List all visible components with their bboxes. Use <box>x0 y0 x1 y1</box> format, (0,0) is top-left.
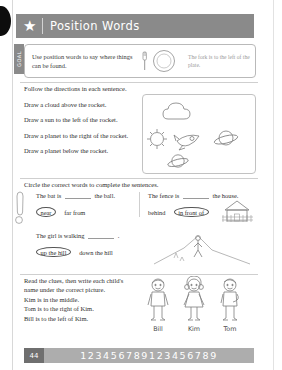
section2-columns: The bat is the ball. near far from The f… <box>24 192 254 217</box>
sentence-after: the ball. <box>94 192 115 199</box>
section1-drawing-area[interactable] <box>142 94 256 174</box>
sentence-before: The bat is <box>36 192 61 199</box>
sentence-after: . <box>118 232 120 239</box>
section1-instruction-list: Draw a cloud above the rocket. Draw a su… <box>24 100 136 155</box>
section-circle-words: Circle the correct words to complete the… <box>24 180 254 272</box>
clue-item: Tom is to the right of Kim. <box>24 304 136 313</box>
child-name-label: Kim <box>178 325 210 333</box>
footer-digit-strip: 123456789123456789 <box>44 350 254 361</box>
planet-right-drawing <box>213 131 238 146</box>
section2-prompt: Circle the correct words to complete the… <box>24 180 254 190</box>
children-figures: Bill <box>142 276 254 333</box>
sentence-before: The fence is <box>148 192 179 199</box>
section-divider-2 <box>20 178 258 179</box>
goal-text: Use position words to say where things c… <box>25 52 136 71</box>
sentence-line: The bat is the ball. <box>36 192 139 199</box>
star-icon: ★ <box>16 19 42 34</box>
choice-plain[interactable]: down the hill <box>79 249 113 256</box>
section-divider-3 <box>20 274 258 275</box>
fork-and-plate-icon <box>136 46 188 76</box>
page-header: ★ Position Words <box>16 14 254 38</box>
list-item: Draw a planet below the rocket. <box>24 146 136 155</box>
section1-prompt: Follow the directions in each sentence. <box>24 84 254 94</box>
answer-blank[interactable] <box>88 232 114 239</box>
page-number-badge: 44 <box>24 348 44 363</box>
bat-and-ball-icon <box>14 190 30 228</box>
section-name-the-children: Read the clues, then write each child's … <box>24 276 254 342</box>
cloud-drawing <box>163 103 190 119</box>
child-name-label: Tom <box>214 325 246 333</box>
answer-blank[interactable] <box>183 192 209 199</box>
rocket-drawing <box>174 135 199 150</box>
section-follow-directions: Follow the directions in each sentence. … <box>24 84 254 176</box>
choice-circled[interactable]: in front of <box>174 207 209 217</box>
goal-example-text: The fork is to the left of the plate. <box>188 53 254 69</box>
sentence-before: The girl is walking <box>36 232 84 239</box>
girl-walking-up-hill-icon <box>154 228 250 268</box>
section-divider-1 <box>20 82 258 83</box>
binding-blob-icon <box>0 6 11 36</box>
choice-row: near far from <box>36 207 139 217</box>
question-fence-house: The fence is the house. behind in front … <box>139 192 254 217</box>
list-item: Draw a sun to the left of the rocket. <box>24 115 136 124</box>
goal-box: Use position words to say where things c… <box>24 44 256 78</box>
planet-below-drawing <box>167 155 189 168</box>
choice-plain[interactable]: behind <box>148 209 165 216</box>
child-figure-2: Kim <box>178 276 210 333</box>
house-with-fence-icon <box>220 198 256 224</box>
section3-prompt: Read the clues, then write each child's … <box>24 276 136 295</box>
clue-item: Bill is to the left of Kim. <box>24 314 136 323</box>
clue-item: Kim is in the middle. <box>24 295 136 304</box>
girl-kim-figure <box>178 276 210 324</box>
choice-circled[interactable]: up the hill <box>36 247 71 257</box>
header-divider <box>42 18 43 34</box>
worksheet-page: ★ Position Words GOAL Use position words… <box>0 0 282 370</box>
answer-blank[interactable] <box>65 192 91 199</box>
list-item: Draw a planet to the right of the rocket… <box>24 131 136 140</box>
boy-bill-figure <box>142 276 174 324</box>
question-bat-ball: The bat is the ball. near far from <box>24 192 139 217</box>
section3-text: Read the clues, then write each child's … <box>24 276 136 323</box>
page-footer: 44 123456789123456789 <box>24 348 254 363</box>
boy-tom-figure <box>214 276 246 324</box>
child-figure-3: Tom <box>214 276 246 333</box>
sun-drawing <box>147 129 167 149</box>
choice-circled[interactable]: near <box>36 207 56 217</box>
page-title: Position Words <box>50 19 140 33</box>
goal-tab-label: GOAL <box>16 51 22 67</box>
child-figure-1: Bill <box>142 276 174 333</box>
goal-tab: GOAL <box>14 44 24 74</box>
list-item: Draw a cloud above the rocket. <box>24 100 136 109</box>
child-name-label: Bill <box>142 325 174 333</box>
page-right-rule <box>273 0 274 370</box>
choice-plain[interactable]: far from <box>64 209 85 216</box>
